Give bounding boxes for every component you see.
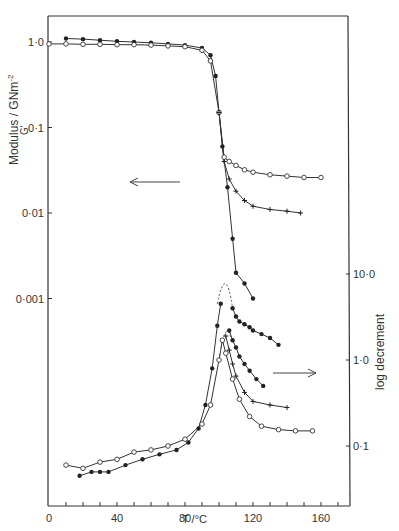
data-curves	[49, 39, 321, 476]
y-left-tick-label: 0·001	[16, 293, 44, 305]
x-tick-label: 120	[244, 512, 262, 524]
y-right-axis-title: log decrement	[373, 313, 387, 390]
y-right-tick-label: 1·0	[353, 354, 369, 366]
y-right-axis-ticks: 10·01·00·1	[346, 268, 375, 452]
arrow-right-icon	[273, 369, 316, 377]
y-left-tick-label: 1·0	[28, 36, 44, 48]
x-tick-label: 160	[312, 512, 330, 524]
y-right-tick-label: 10·0	[353, 268, 375, 280]
x-axis-title: T /°C	[182, 513, 207, 525]
y-left-tick-label: 0·01	[22, 207, 44, 219]
svg-text:G': G'	[19, 125, 30, 135]
x-tick-label: 0	[46, 512, 52, 524]
data-markers	[47, 36, 324, 478]
plot-frame	[48, 16, 350, 506]
x-tick-label: 40	[111, 512, 123, 524]
y-left-axis-ticks: 1·00·10·010·001	[16, 36, 52, 305]
y-left-axis-title: Modulus / GNm-2 G'	[6, 74, 30, 165]
y-left-tick-label: 0·1	[28, 122, 44, 134]
y-right-tick-label: 0·1	[353, 440, 369, 452]
chart: 04080120160 1·00·10·010·001 10·01·00·1 T…	[0, 0, 399, 531]
svg-text:log decrement: log decrement	[373, 313, 387, 390]
svg-text:Modulus / GNm-2: Modulus / GNm-2	[6, 74, 21, 165]
arrow-left-icon	[130, 178, 180, 186]
